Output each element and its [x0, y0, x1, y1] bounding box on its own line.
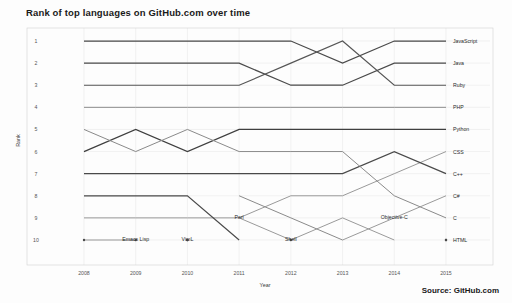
annotation-viml: VimL [182, 236, 194, 242]
chart-figure: Rank of top languages on GitHub.com over… [0, 0, 512, 303]
series-end-label-c: C [453, 215, 457, 221]
series-line-c- [84, 152, 446, 174]
annotation-shell: Shell [285, 236, 297, 242]
x-tick-label: 2012 [285, 270, 297, 276]
y-tick-label: 5 [35, 126, 38, 132]
x-tick-label: 2011 [234, 270, 245, 276]
x-tick-label: 2015 [440, 270, 452, 276]
x-tick-label: 2008 [78, 270, 90, 276]
y-tick-label: 7 [35, 171, 38, 177]
series-end-label-javascript: JavaScript [453, 38, 478, 44]
y-tick-label: 6 [35, 149, 38, 155]
series-line-javascript [84, 41, 446, 63]
series-layer [84, 41, 446, 240]
rank-line-chart: 12345678910 2008200920102011201220132014… [0, 0, 512, 303]
series-end-label-html: HTML [453, 237, 467, 243]
series-end-label-java: Java [453, 60, 464, 66]
x-tick-label: 2014 [389, 270, 401, 276]
y-tick-label: 2 [35, 60, 38, 66]
series-line-python [84, 129, 446, 151]
x-tick-label: 2013 [337, 270, 349, 276]
rank-ten-marker [445, 239, 447, 241]
x-axis-tick-labels: 20082009201020112012201320142015 [78, 270, 452, 276]
series-end-label-c-: C++ [453, 171, 463, 177]
y-tick-label: 9 [35, 215, 38, 221]
series-end-label-css: CSS [453, 149, 464, 155]
y-axis-tick-labels: 12345678910 [33, 38, 39, 243]
source-credit: Source: GitHub.com [422, 286, 499, 295]
y-tick-label: 1 [35, 38, 38, 44]
y-tick-label: 10 [33, 237, 39, 243]
annotation-objective-c: Objective-C [381, 214, 408, 220]
series-end-label-c-: C# [453, 193, 460, 199]
annotation-emacs-lisp: Emacs Lisp [122, 236, 149, 242]
y-tick-label: 8 [35, 193, 38, 199]
x-tick-label: 2010 [182, 270, 194, 276]
series-end-label-php: PHP [453, 104, 464, 110]
series-end-labels: JavaScriptJavaRubyPHPPythonCSSC++C#CHTML [453, 38, 478, 243]
y-tick-label: 4 [35, 104, 38, 110]
series-line-css [84, 152, 446, 218]
rank-ten-marker [83, 239, 85, 241]
series-end-label-python: Python [453, 126, 469, 132]
y-axis-title: Rank [15, 134, 21, 147]
x-tick-label: 2009 [130, 270, 142, 276]
annotation-perl: Perl [235, 214, 244, 220]
y-tick-label: 3 [35, 82, 38, 88]
x-axis-title: Year [260, 282, 271, 288]
series-end-label-ruby: Ruby [453, 82, 466, 88]
